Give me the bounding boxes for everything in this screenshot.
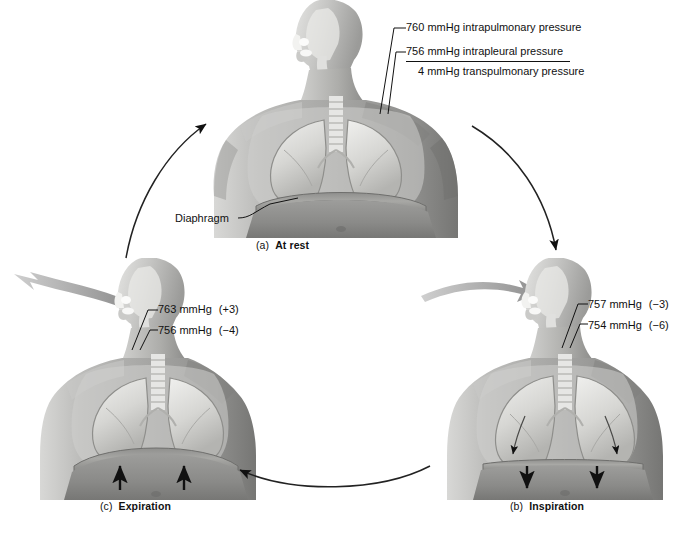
diagram-canvas: (a) At rest 760 mmHg intrapulmonary pres…: [0, 0, 675, 539]
cycle-arrow-layer: [0, 0, 675, 539]
cycle-arrow-expiration-to-rest: [126, 124, 206, 258]
cycle-arrow-inspiration-to-expiration: [240, 466, 430, 487]
cycle-arrow-rest-to-inspiration: [472, 126, 556, 250]
